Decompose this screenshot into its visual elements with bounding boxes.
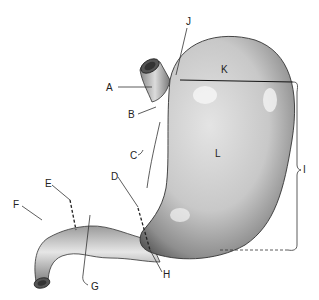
label-j: J	[186, 16, 191, 27]
label-h: H	[163, 269, 170, 280]
label-g: G	[91, 281, 99, 292]
label-d: D	[111, 171, 118, 182]
label-c: C	[130, 150, 137, 161]
label-a: A	[106, 82, 113, 93]
label-k: K	[221, 64, 228, 75]
label-e: E	[45, 178, 52, 189]
duodenum-junction-line	[70, 200, 76, 230]
esophagus	[138, 56, 170, 102]
label-b: B	[128, 109, 135, 120]
stomach-diagram: A B C D E F G H I J K L	[0, 0, 319, 300]
highlight	[170, 208, 190, 222]
label-l: L	[215, 148, 221, 159]
highlight	[263, 88, 277, 112]
label-i: I	[303, 164, 306, 175]
highlight	[193, 86, 217, 104]
label-f: F	[13, 199, 19, 210]
